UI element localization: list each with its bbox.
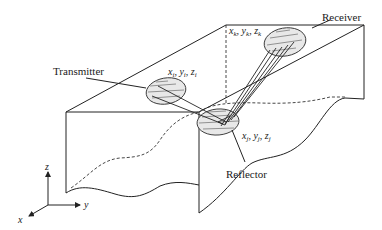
y-axis-label: y (83, 199, 89, 210)
transmitter-leader (86, 78, 146, 88)
front-bottom-edge (66, 182, 199, 196)
reflector-label: Reflector (226, 168, 267, 180)
transmitter-label: Transmitter (53, 65, 104, 77)
receiver-coordinates: xk, yk, zk (228, 25, 262, 38)
transmitter-patch (144, 75, 188, 108)
hidden-front-profile (71, 112, 199, 188)
x-axis-arrow-icon (29, 205, 48, 216)
receiver-label: Receiver (322, 11, 361, 23)
axis-triad: z y x (17, 161, 89, 225)
receiver-patch (262, 25, 308, 60)
x-axis-label: x (17, 214, 23, 225)
z-axis-label: z (44, 161, 49, 172)
geometry-diagram: Transmitter Receiver Reflector xi, yi, z… (0, 0, 382, 230)
transmitter-coordinates: xi, yi, zi (167, 66, 197, 79)
reflector-coordinates: xj, yj, zj (241, 130, 271, 143)
